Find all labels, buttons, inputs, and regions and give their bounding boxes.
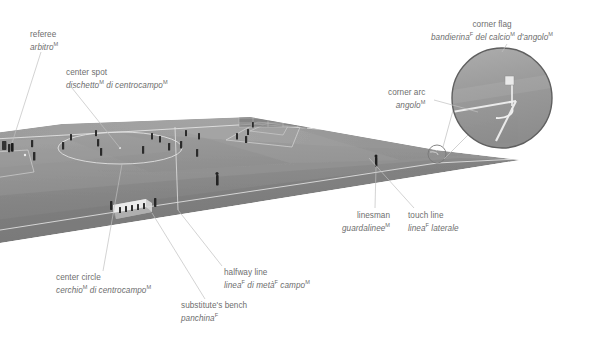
label-corner-arc-en: corner arc — [388, 88, 425, 98]
label-center-spot: center spot dischettoM di centrocampoM — [66, 68, 168, 90]
label-referee: referee arbitroM — [30, 30, 58, 52]
label-center-circle: center circle cerchioM di centrocampoM — [56, 273, 151, 295]
label-halfway-line: halfway line lineaF di metàF campoM — [224, 268, 310, 290]
label-center-spot-it: dischettoM di centrocampoM — [66, 78, 168, 91]
label-center-spot-en: center spot — [66, 68, 168, 78]
label-touch-line: touch line lineaF laterale — [408, 211, 459, 233]
label-linesman-en: linesman — [342, 211, 390, 221]
label-linesman-it: guardalineeM — [342, 221, 390, 234]
label-halfway-line-it: lineaF di metàF campoM — [224, 278, 310, 291]
label-substitutes-bench-it: panchinaF — [181, 311, 247, 324]
label-referee-en: referee — [30, 30, 58, 40]
label-substitutes-bench-en: substitute's bench — [181, 301, 247, 311]
label-center-circle-it: cerchioM di centrocampoM — [56, 283, 151, 296]
label-linesman: linesman guardalineeM — [342, 211, 390, 233]
label-substitutes-bench: substitute's bench panchinaF — [181, 301, 247, 323]
label-center-circle-en: center circle — [56, 273, 151, 283]
label-corner-arc: corner arc angoloM — [388, 88, 425, 110]
referee-figure — [11, 143, 14, 152]
label-referee-it: arbitroM — [30, 40, 58, 53]
label-corner-flag-it: bandierinaF del calcioM d'angoloM — [431, 30, 553, 43]
label-touch-line-it: lineaF laterale — [408, 221, 459, 234]
figure-canvas: referee arbitroM center spot dischettoM … — [0, 0, 594, 337]
label-halfway-line-en: halfway line — [224, 268, 310, 278]
label-touch-line-en: touch line — [408, 211, 459, 221]
label-corner-flag: corner flag bandierinaF del calcioM d'an… — [431, 20, 553, 42]
label-corner-flag-en: corner flag — [431, 20, 553, 30]
label-corner-arc-it: angoloM — [388, 98, 425, 111]
